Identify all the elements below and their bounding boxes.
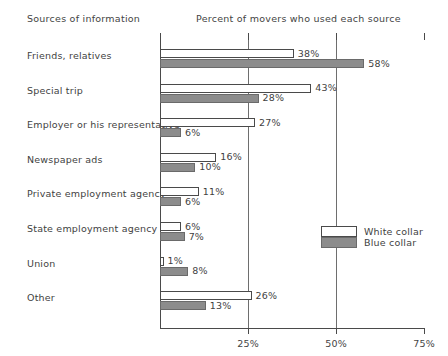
- bar-white-collar: [160, 257, 164, 266]
- bar-white-collar: [160, 222, 181, 231]
- category-label: Union: [27, 258, 55, 269]
- category-label: State employment agency: [27, 223, 157, 234]
- bar-chart: Sources of information Percent of movers…: [0, 0, 448, 356]
- bar-value-label: 1%: [168, 255, 183, 266]
- bar-blue-collar: [160, 163, 195, 172]
- bar-value-label: 27%: [259, 117, 281, 128]
- bar-blue-collar: [160, 301, 206, 310]
- category-label: Private employment agency: [27, 188, 166, 199]
- x-tick-bottom-50: [336, 328, 337, 334]
- legend-label-white-collar: White collar: [364, 226, 423, 237]
- category-label: Friends, relatives: [27, 50, 112, 61]
- legend-label-blue-collar: Blue collar: [364, 237, 416, 248]
- x-axis-label-75: 75%: [413, 338, 435, 349]
- bar-blue-collar: [160, 94, 259, 103]
- category-label: Special trip: [27, 85, 83, 96]
- x-tick-bottom-25: [248, 328, 249, 334]
- bar-value-label: 43%: [315, 82, 337, 93]
- x-axis-line: [160, 328, 424, 329]
- plot-area: 25%50%75% 38%58%43%28%27%6%16%10%11%6%6%…: [160, 40, 424, 328]
- x-tick-50: [336, 33, 337, 40]
- bar-white-collar: [160, 118, 255, 127]
- bar-value-label: 10%: [199, 161, 221, 172]
- category-label: Employer or his representative: [27, 119, 180, 130]
- x-tick-bottom-75: [424, 328, 425, 334]
- bar-value-label: 6%: [185, 127, 200, 138]
- bar-blue-collar: [160, 197, 181, 206]
- bar-value-label: 58%: [368, 58, 390, 69]
- x-axis-label-25: 25%: [237, 338, 259, 349]
- bar-value-label: 7%: [189, 231, 204, 242]
- bar-value-label: 6%: [185, 196, 200, 207]
- bar-value-label: 38%: [298, 48, 320, 59]
- bar-white-collar: [160, 291, 252, 300]
- x-tick-25: [248, 33, 249, 40]
- x-axis-label-50: 50%: [325, 338, 347, 349]
- bar-value-label: 11%: [203, 186, 225, 197]
- x-tick-0: [160, 33, 161, 40]
- legend-swatch-blue-collar: [321, 237, 357, 248]
- bar-value-label: 8%: [192, 265, 207, 276]
- bar-blue-collar: [160, 267, 188, 276]
- bar-value-label: 13%: [210, 300, 232, 311]
- bar-white-collar: [160, 49, 294, 58]
- bar-blue-collar: [160, 232, 185, 241]
- bar-value-label: 26%: [256, 290, 278, 301]
- bar-value-label: 28%: [263, 92, 285, 103]
- category-label: Newspaper ads: [27, 154, 103, 165]
- bar-blue-collar: [160, 128, 181, 137]
- bar-blue-collar: [160, 59, 364, 68]
- bar-white-collar: [160, 84, 311, 93]
- x-tick-75: [424, 33, 425, 40]
- category-label: Other: [27, 292, 55, 303]
- bar-value-label: 16%: [220, 151, 242, 162]
- legend-swatch-white-collar: [321, 226, 357, 237]
